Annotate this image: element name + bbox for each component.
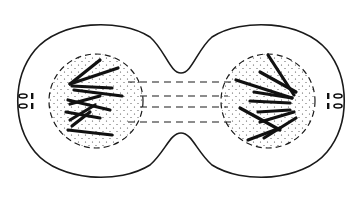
cell-division-diagram bbox=[0, 0, 362, 202]
right-nucleus bbox=[221, 54, 315, 148]
right-centrioles bbox=[327, 93, 342, 109]
left-nucleus bbox=[49, 54, 143, 148]
left-centrioles bbox=[19, 93, 33, 109]
spindle-fibers bbox=[128, 82, 236, 122]
